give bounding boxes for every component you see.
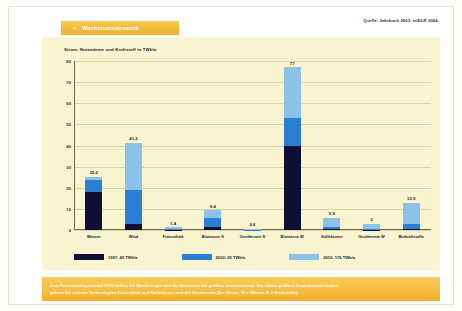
stacked-bar[interactable]: 1.4Fotovoltaik: [165, 227, 182, 230]
bar-series-group: 25.2Wasser41.2Wind1.4Fotovoltaik9.4Bioma…: [74, 61, 431, 230]
y-axis-tick-label: 50: [66, 122, 71, 127]
stacked-bar[interactable]: 5.9Kollektoren: [323, 218, 340, 230]
x-axis-tick-label: Fotovoltaik: [163, 234, 184, 239]
gridline: [74, 230, 431, 231]
bar-segment: [204, 227, 221, 230]
y-axis-title: Strom, Nutzwärme und Kraftstoff in TWh/a: [64, 47, 156, 52]
bar-segment: [85, 192, 102, 230]
bar-segment: [125, 143, 142, 190]
caption-line-1: Zum Fortschreitspotential 2010 liefern d…: [50, 283, 432, 288]
x-axis-tick-label: Geothermie W: [358, 234, 384, 239]
bar-slot: 77Biomasse W: [272, 61, 312, 230]
bar-segment: [284, 118, 301, 145]
stacked-bar[interactable]: 25.2Wasser: [85, 177, 102, 230]
bar-value-label: 5.9: [329, 211, 335, 216]
bar-segment: [204, 210, 221, 218]
x-axis-tick-label: Geothermie S: [240, 234, 265, 239]
bar-segment: [125, 224, 142, 230]
x-axis-tick-label: Wasser: [87, 234, 101, 239]
bar-slot: 1.4Fotovoltaik: [153, 61, 193, 230]
bar-segment: [403, 203, 420, 224]
x-axis-tick-label: Biokraftstoffe: [399, 234, 424, 239]
stacked-bar[interactable]: 41.2Wind: [125, 143, 142, 230]
bar-value-label: 77: [290, 61, 295, 66]
x-axis-tick-label: Biomasse S: [202, 234, 224, 239]
bar-segment: [85, 180, 102, 192]
bar-segment: [323, 229, 340, 230]
bar-segment: [403, 229, 420, 230]
x-axis-tick-label: Kollektoren: [321, 234, 342, 239]
stacked-bar[interactable]: 3Geothermie W: [363, 224, 380, 230]
arrow-right-icon: ➞: [72, 25, 77, 31]
y-axis-tick-label: 20: [66, 185, 71, 190]
plot-area: 01020304050607080 25.2Wasser41.2Wind1.4F…: [74, 61, 431, 230]
bar-segment: [284, 146, 301, 230]
legend-swatch: [289, 254, 319, 260]
stacked-bar[interactable]: 12.9Biokraftstoffe: [403, 203, 420, 230]
legend-item[interactable]: 2002: 65 TWh/a: [182, 254, 246, 260]
stacked-bar[interactable]: 77Biomasse W: [284, 67, 301, 230]
caption-bar: Zum Fortschreitspotential 2010 liefern d…: [42, 277, 440, 301]
bar-segment: [204, 218, 221, 227]
x-axis-tick-label: Biomasse W: [281, 234, 304, 239]
legend-label: 2002: 65 TWh/a: [216, 255, 246, 260]
bar-segment: [323, 218, 340, 227]
legend-label: 1997: 45 TWh/a: [108, 255, 138, 260]
legend-item[interactable]: 2010: 176 TWh/a: [289, 254, 355, 260]
y-axis-tick-label: 80: [66, 59, 71, 64]
bar-slot: 12.9Biokraftstoffe: [391, 61, 431, 230]
y-axis-tick-label: 10: [66, 206, 71, 211]
y-axis-tick-label: 40: [66, 143, 71, 148]
section-title-pill: ➞ Wachstumsdynamik: [61, 21, 179, 35]
bar-value-label: 25.2: [90, 170, 98, 175]
bar-slot: 3Geothermie W: [352, 61, 392, 230]
bar-value-label: 1.4: [170, 221, 176, 226]
bar-value-label: 3: [370, 217, 372, 222]
caption-line-2: jedoch die solaren Technologien Fotovolt…: [50, 290, 432, 295]
chart-legend: 1997: 45 TWh/a2002: 65 TWh/a2010: 176 TW…: [74, 252, 431, 262]
bar-slot: 41.2Wind: [114, 61, 154, 230]
bar-value-label: 41.2: [129, 136, 137, 141]
bar-value-label: 0.6: [250, 222, 256, 227]
bar-segment: [125, 190, 142, 224]
screenshot-root: Quelle: Jahrbuch 2003, ni/DLR 2004. ➞ Wa…: [0, 0, 462, 311]
stacked-bar[interactable]: 9.4Biomasse S: [204, 210, 221, 230]
section-title-label: Wachstumsdynamik: [82, 25, 139, 31]
bar-value-label: 9.4: [210, 204, 216, 209]
y-axis-tick-label: 60: [66, 101, 71, 106]
bar-slot: 5.9Kollektoren: [312, 61, 352, 230]
legend-label: 2010: 176 TWh/a: [323, 255, 355, 260]
stacked-bar[interactable]: 0.6Geothermie S: [244, 229, 261, 230]
y-axis-tick-label: 0: [69, 228, 71, 233]
legend-swatch: [182, 254, 212, 260]
chart-sheet: Quelle: Jahrbuch 2003, ni/DLR 2004. ➞ Wa…: [8, 6, 454, 305]
plot-panel: Strom, Nutzwärme und Kraftstoff in TWh/a…: [42, 37, 440, 270]
y-axis-tick-label: 70: [66, 80, 71, 85]
legend-item[interactable]: 1997: 45 TWh/a: [74, 254, 138, 260]
source-note: Quelle: Jahrbuch 2003, ni/DLR 2004.: [363, 18, 439, 23]
bar-segment: [284, 67, 301, 118]
bar-value-label: 12.9: [407, 196, 415, 201]
y-axis-tick-label: 30: [66, 164, 71, 169]
bar-slot: 9.4Biomasse S: [193, 61, 233, 230]
legend-swatch: [74, 254, 104, 260]
x-axis-tick-label: Wind: [129, 234, 138, 239]
bar-slot: 0.6Geothermie S: [233, 61, 273, 230]
bar-slot: 25.2Wasser: [74, 61, 114, 230]
